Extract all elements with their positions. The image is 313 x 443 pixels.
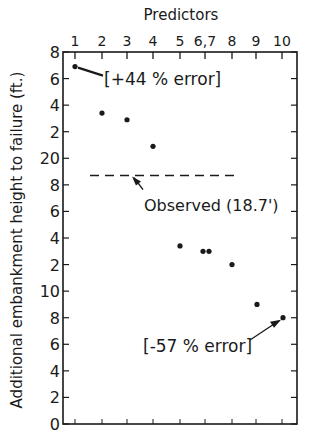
y-tick-label: 0 — [50, 415, 60, 434]
annotation-minus57: [-57 % error] — [143, 336, 252, 356]
annotation-observed: Observed (18.7') — [144, 196, 279, 215]
data-point — [280, 315, 285, 320]
y-tick-label: 6 — [50, 202, 60, 221]
data-point — [99, 111, 104, 116]
x-tick-label: 10 — [273, 33, 291, 49]
y-tick-label: 20 — [40, 149, 60, 168]
y-tick-label: 4 — [50, 96, 60, 115]
y-tick-label: 2 — [50, 388, 60, 407]
y-ticks: 86422086421086420 — [40, 43, 297, 434]
y-tick-label: 2 — [50, 123, 60, 142]
data-point — [177, 243, 182, 248]
y-tick-label: 2 — [50, 256, 60, 275]
chart: Additional embankment height to failure … — [0, 0, 313, 443]
x-tick-label: 5 — [176, 33, 185, 49]
y-tick-label: 6 — [50, 335, 60, 354]
data-points — [72, 64, 285, 320]
annotation-plus44: [+44 % error] — [104, 69, 221, 89]
y-tick-label: 8 — [50, 43, 60, 62]
x-tick-label: 4 — [149, 33, 158, 49]
data-point — [124, 117, 129, 122]
x-tick-label: 1 — [71, 33, 80, 49]
x-ticks: 123456,78910 — [71, 33, 291, 424]
data-point — [72, 64, 77, 69]
data-point — [254, 302, 259, 307]
x-axis-title: Predictors — [144, 6, 219, 24]
x-tick-label: 9 — [252, 33, 261, 49]
y-tick-label: 4 — [50, 362, 60, 381]
y-axis-title: Additional embankment height to failure … — [8, 72, 26, 409]
y-tick-label: 4 — [50, 229, 60, 248]
plot-frame — [63, 52, 297, 424]
data-point — [206, 249, 211, 254]
data-point — [150, 144, 155, 149]
y-tick-label: 6 — [50, 70, 60, 89]
y-tick-label: 8 — [50, 309, 60, 328]
x-tick-label: 6,7 — [194, 33, 216, 49]
x-tick-label: 3 — [123, 33, 132, 49]
x-tick-label: 8 — [228, 33, 237, 49]
y-tick-label: 8 — [50, 176, 60, 195]
y-tick-label: 10 — [40, 282, 60, 301]
data-point — [200, 249, 205, 254]
data-point — [229, 262, 234, 267]
x-tick-label: 2 — [98, 33, 107, 49]
annotations: [+44 % error][-57 % error]Observed (18.7… — [78, 68, 281, 356]
